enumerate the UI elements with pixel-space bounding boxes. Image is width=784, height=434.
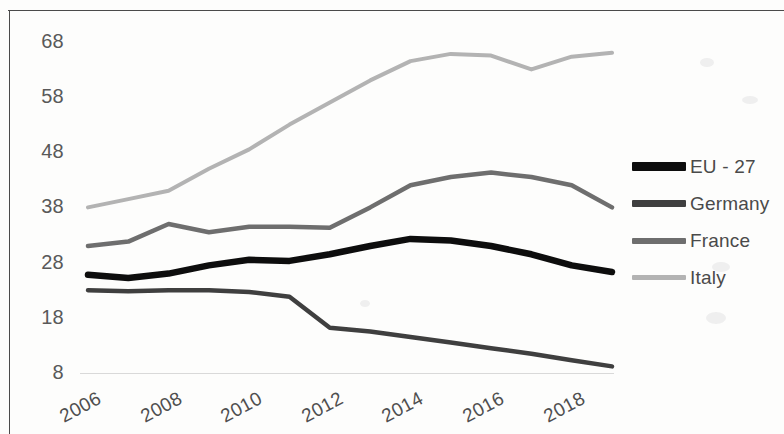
legend-label: Germany [686, 193, 770, 215]
chart-page: 8182838485868 20062008201020122014201620… [0, 0, 784, 434]
scan-artifact [700, 58, 714, 67]
legend-item-italy[interactable]: Italy [632, 259, 784, 296]
legend-label: France [686, 230, 750, 252]
scan-artifact [360, 300, 370, 307]
legend-item-eu-27[interactable]: EU - 27 [632, 148, 784, 185]
legend-item-germany[interactable]: Germany [632, 185, 784, 222]
legend-swatch-icon [632, 275, 686, 280]
legend-swatch-icon [632, 162, 686, 171]
chart-legend: EU - 27GermanyFranceItaly [632, 148, 784, 296]
line-chart: 8182838485868 20062008201020122014201620… [0, 0, 784, 434]
legend-item-france[interactable]: France [632, 222, 784, 259]
scan-artifact [742, 96, 758, 104]
legend-label: EU - 27 [686, 156, 756, 178]
legend-swatch-icon [632, 200, 686, 207]
series-line-germany [88, 290, 612, 366]
scan-artifact [712, 262, 730, 272]
scan-artifact [706, 312, 726, 324]
series-line-italy [88, 53, 612, 208]
series-line-france [88, 173, 612, 246]
series-line-eu-27 [88, 239, 612, 278]
legend-swatch-icon [632, 238, 686, 244]
